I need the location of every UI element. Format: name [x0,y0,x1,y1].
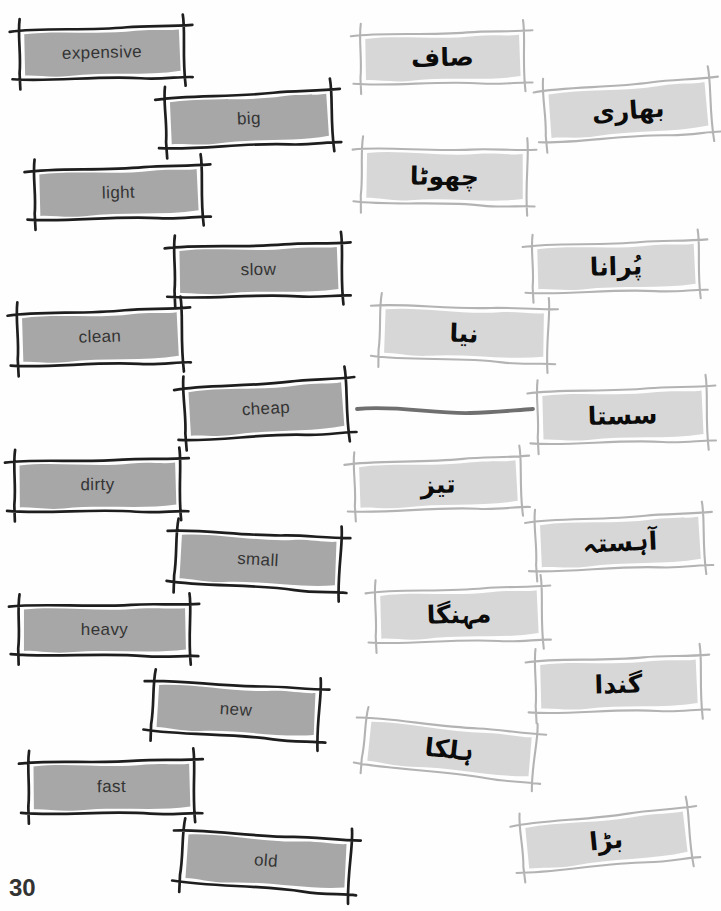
card-english-old[interactable]: old [177,825,355,897]
card-english-dirty[interactable]: dirty [12,455,183,514]
card-label: گندا [594,669,643,699]
card-label: ہلکا [424,732,476,766]
card-label: آہستہ [582,526,657,558]
card-label: سستا [587,400,657,431]
card-label: بڑا [588,824,624,856]
card-urdu-aahista[interactable]: آہستہ [532,509,708,575]
card-label: چھوٹا [410,161,479,191]
card-label: big [237,108,262,129]
card-label: نیا [449,318,479,348]
card-english-slow[interactable]: slow [172,239,346,300]
card-label: small [237,549,280,571]
card-english-cheap[interactable]: cheap [180,374,351,443]
worksheet-page: expensive big light slow clean cheap dir… [0,0,721,911]
card-english-expensive[interactable]: expensive [16,22,187,83]
card-label: تیز [420,469,456,499]
card-urdu-bhaari[interactable]: بھاری [540,74,716,146]
card-label: dirty [80,475,114,495]
card-urdu-sasta[interactable]: سستا [534,383,711,448]
card-label: صاف [411,42,474,72]
card-urdu-halka[interactable]: ہلکا [359,713,541,785]
card-urdu-saaf[interactable]: صاف [358,28,528,88]
card-english-light[interactable]: light [31,162,205,224]
card-label: cheap [241,398,290,421]
card-label: fast [97,776,126,796]
card-urdu-mahanga[interactable]: مہنگا [372,583,545,646]
card-urdu-tez[interactable]: تیز [351,453,525,515]
card-english-heavy[interactable]: heavy [16,601,193,658]
card-urdu-ganda[interactable]: گندا [532,652,705,716]
card-label: مہنگا [426,599,491,630]
card-urdu-naya[interactable]: نیا [376,300,552,366]
card-label: slow [241,260,277,281]
card-english-big[interactable]: big [162,86,336,151]
card-english-clean[interactable]: clean [14,304,186,369]
card-label: بھاری [591,93,665,127]
match-line-cheap-sasta [350,398,540,422]
page-number: 30 [9,874,36,902]
card-urdu-chhota[interactable]: چھوٹا [358,144,530,209]
card-english-fast[interactable]: fast [26,756,198,816]
card-urdu-purana[interactable]: پُرانا [529,237,702,296]
card-english-small[interactable]: small [171,525,344,594]
card-label: old [253,850,278,872]
card-label: پُرانا [589,251,642,281]
card-label: light [102,182,136,203]
card-label: clean [78,326,121,347]
card-english-new[interactable]: new [148,676,323,744]
card-label: new [219,699,253,721]
card-label: heavy [81,620,128,640]
card-label: expensive [62,42,143,64]
card-urdu-bara[interactable]: بڑا [517,804,696,876]
